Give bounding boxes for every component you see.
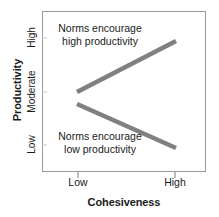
y-tick-label-low: Low	[26, 115, 37, 175]
y-tick-label-high: High	[26, 8, 37, 68]
y-tick-label-moderate: Moderate	[26, 62, 37, 122]
x-tick-label-high: High	[145, 176, 205, 188]
annotation-high-line1: Norms encourage	[48, 22, 152, 35]
annotation-low-line1: Norms encourage	[48, 130, 152, 143]
chart-figure: Productivity High Moderate Low Low High …	[0, 0, 219, 217]
x-tick-label-low: Low	[48, 176, 108, 188]
annotation-high-line2: high productivity	[48, 35, 152, 48]
annotation-high-productivity: Norms encourage high productivity	[48, 22, 152, 47]
x-axis-title: Cohesiveness	[42, 196, 206, 208]
annotation-low-line2: low productivity	[48, 143, 152, 156]
y-axis-title: Productivity	[11, 40, 23, 140]
annotation-low-productivity: Norms encourage low productivity	[48, 130, 152, 155]
